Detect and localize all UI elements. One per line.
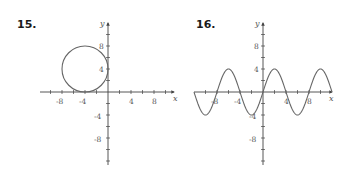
x-tick-label: 8 (152, 97, 157, 106)
x-axis-label: x (173, 94, 178, 103)
y-tick-label: -8 (94, 135, 102, 144)
graph-16: -8 -4 4 8 8 4 -4 -8 y x (194, 19, 334, 165)
y-tick-label: 8 (254, 42, 259, 51)
y-axis-label: y (99, 19, 105, 28)
x-tick-label: -4 (79, 97, 87, 106)
x-tick-label: 4 (129, 97, 134, 106)
y-tick-label: -4 (94, 112, 102, 121)
y-tick-label: -8 (249, 135, 257, 144)
x-tick-label: -8 (56, 97, 64, 106)
y-axis-label: y (254, 19, 260, 28)
y-tick-label: 8 (99, 42, 104, 51)
x-axis-label: x (329, 94, 334, 103)
graph-15: -8 -4 4 8 8 4 -4 -8 y x (40, 19, 178, 165)
graphs-canvas: -8 -4 4 8 8 4 -4 -8 y x -8 -4 (0, 0, 352, 188)
x-tick-label: 8 (307, 97, 312, 106)
y-tick-label: -4 (249, 112, 257, 121)
y-tick-label: 4 (254, 65, 259, 74)
y-tick-label: 4 (99, 65, 104, 74)
x-tick-label: -4 (234, 97, 242, 106)
